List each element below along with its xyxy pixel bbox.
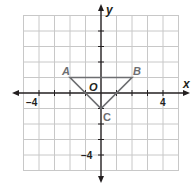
y-axis-label: y bbox=[105, 3, 114, 17]
x-axis-label: x bbox=[182, 77, 191, 91]
tick-label-x-pos4: 4 bbox=[160, 97, 166, 108]
origin-label: O bbox=[89, 81, 98, 93]
coordinate-plane: x y O −4 4 −4 A B C bbox=[0, 0, 193, 190]
tick-label-y-neg4: −4 bbox=[81, 150, 93, 161]
axes bbox=[16, 8, 186, 179]
arrow-left-icon bbox=[12, 90, 19, 96]
point-label-c: C bbox=[103, 111, 111, 123]
tick-label-x-neg4: −4 bbox=[26, 97, 38, 108]
arrow-down-icon bbox=[98, 176, 104, 183]
arrow-up-icon bbox=[98, 4, 104, 11]
point-label-b: B bbox=[133, 65, 141, 77]
point-label-a: A bbox=[61, 65, 70, 77]
